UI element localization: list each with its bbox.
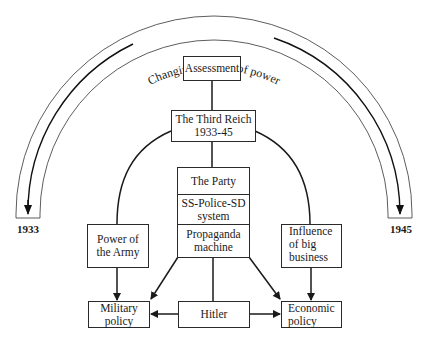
year-1933-label: 1933	[17, 223, 39, 235]
third-reich-box: The Third Reich 1933-45	[171, 110, 256, 142]
assessment-label: Assessment	[185, 62, 239, 75]
military-label-line2: policy	[105, 315, 134, 328]
business-label-line2: of big	[289, 238, 316, 251]
propaganda-label-line1: Propaganda	[186, 228, 240, 241]
propaganda-label-line2: machine	[194, 241, 233, 254]
ss-police-sd-cell: SS-Police-SD system	[178, 195, 249, 225]
arrow-to-1933-icon	[24, 205, 32, 215]
ss-label-line2: system	[198, 210, 230, 223]
year-1945-label: 1945	[390, 223, 412, 235]
business-label-line3: business	[289, 251, 328, 264]
business-label-line1: Influence	[289, 225, 332, 238]
party-label: The Party	[191, 175, 236, 188]
army-box: Power of the Army	[87, 224, 149, 268]
party-stack: The Party SS-Police-SD system Propaganda…	[177, 167, 250, 258]
economic-policy-box: Economic policy	[281, 301, 342, 328]
economic-label-line1: Economic	[288, 302, 335, 315]
hitler-label: Hitler	[201, 308, 228, 321]
party-cell: The Party	[178, 168, 249, 195]
arrow-to-1945-icon	[396, 205, 404, 215]
big-business-box: Influence of big business	[281, 224, 342, 268]
army-label-line1: Power of	[97, 233, 139, 246]
military-label-line1: Military	[100, 302, 138, 315]
military-policy-box: Military policy	[88, 301, 150, 328]
third-reich-years: 1933-45	[194, 126, 232, 139]
hitler-box: Hitler	[178, 301, 250, 328]
ss-label-line1: SS-Police-SD	[182, 197, 246, 210]
economic-label-line2: policy	[288, 315, 317, 328]
army-label-line2: the Army	[96, 246, 139, 259]
propaganda-cell: Propaganda machine	[178, 225, 249, 257]
third-reich-title: The Third Reich	[176, 113, 252, 126]
assessment-box: Assessment	[183, 56, 241, 81]
